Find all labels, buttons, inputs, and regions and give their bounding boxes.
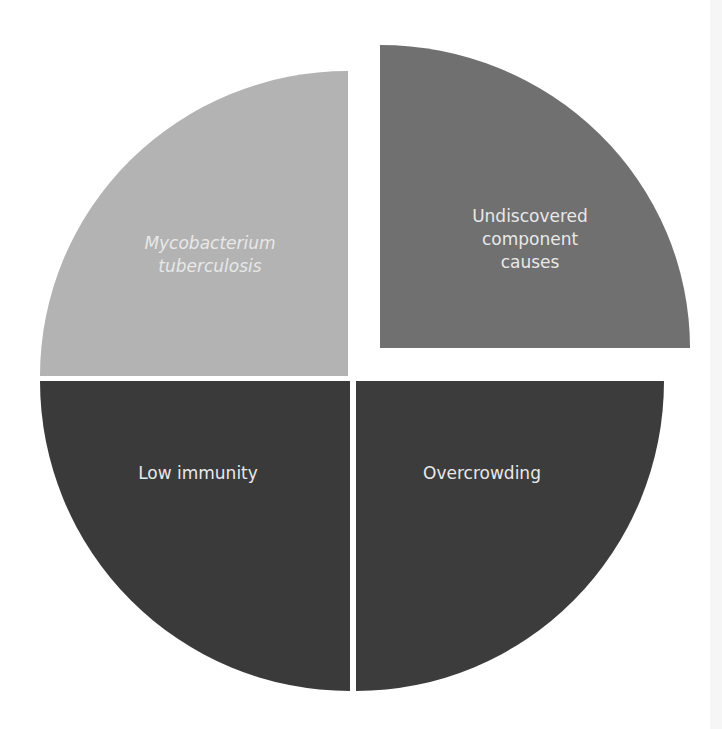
label-line: tuberculosis (135, 255, 285, 278)
label-line: component (450, 228, 610, 251)
slice-overcrowding (356, 381, 664, 691)
slice-low-immunity (40, 381, 350, 691)
label-overcrowding: Overcrowding (402, 462, 562, 485)
slice-undiscovered (380, 45, 690, 348)
label-mycobacterium: Mycobacterium tuberculosis (135, 232, 285, 278)
label-undiscovered: Undiscovered component causes (450, 205, 610, 274)
label-line: Undiscovered (450, 205, 610, 228)
label-low-immunity: Low immunity (118, 462, 278, 485)
label-line: Mycobacterium (135, 232, 285, 255)
slice-mycobacterium (40, 71, 348, 376)
causal-pie-chart (0, 0, 722, 729)
label-line: causes (450, 251, 610, 274)
